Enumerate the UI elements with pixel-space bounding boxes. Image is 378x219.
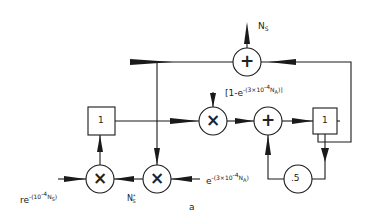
input-ns-star-label: N*S	[127, 195, 136, 203]
input-r-label: re-(10-4NS)	[20, 196, 57, 205]
plus-icon: +	[240, 53, 254, 70]
gain-label: .5	[291, 174, 300, 183]
bracket-factor-label: [1-e-(3×10-4NA)]	[225, 89, 283, 98]
delay-box-right-label: 1	[322, 116, 328, 125]
delay-box-left-label: 1	[98, 116, 104, 125]
output-ns-label: NS	[258, 22, 269, 31]
times-icon: ×	[93, 170, 107, 187]
times-icon: ×	[150, 170, 164, 187]
times-icon: ×	[206, 112, 220, 129]
arrowheads	[64, 22, 329, 182]
figure-caption: a	[189, 203, 195, 212]
plus-icon: +	[261, 112, 275, 129]
input-e-label: e-(3×10-4NA)	[206, 177, 249, 186]
block-diagram	[0, 0, 378, 219]
